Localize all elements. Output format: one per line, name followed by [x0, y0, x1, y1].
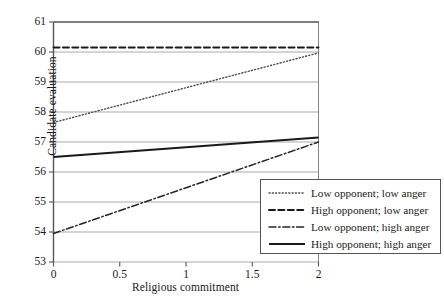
y-tick-label: 54 [16, 226, 46, 238]
legend-label: Low opponent; high anger [311, 221, 429, 233]
legend-label: Low opponent; low anger [311, 187, 426, 199]
y-tick-label: 55 [16, 196, 46, 208]
legend-item: Low opponent; high anger [261, 218, 442, 235]
legend-line-swatch-dashed [268, 203, 306, 217]
chart-legend: Low opponent; low angerHigh opponent; lo… [260, 179, 441, 254]
chart-figure: 535455565758596061 00.511.52 Candidate e… [0, 0, 444, 308]
legend-item: High opponent; high anger [261, 235, 442, 252]
y-tick-label: 53 [16, 256, 46, 268]
y-axis-title: Candidate evaluation [46, 6, 58, 206]
legend-line-swatch-dashdot [268, 220, 306, 234]
y-tick-label: 60 [16, 46, 46, 58]
y-tick-label: 56 [16, 166, 46, 178]
x-tick-label: 0 [34, 269, 74, 281]
x-tick-label: 1 [166, 269, 206, 281]
x-tick-label: 2 [299, 269, 339, 281]
legend-line-swatch-dotted [268, 186, 306, 200]
legend-line-swatch-solid [268, 237, 306, 251]
legend-item: High opponent; low anger [261, 201, 442, 218]
y-tick-label: 61 [16, 16, 46, 28]
y-tick-label: 57 [16, 136, 46, 148]
x-axis-ticks [54, 262, 319, 267]
y-tick-label: 58 [16, 106, 46, 118]
legend-item: Low opponent; low anger [261, 184, 442, 201]
legend-label: High opponent; low anger [311, 204, 428, 216]
x-tick-label: 1.5 [232, 269, 272, 281]
legend-label: High opponent; high anger [311, 238, 431, 250]
x-axis-title: Religious commitment [53, 281, 318, 293]
plot-area [0, 0, 444, 308]
y-tick-label: 59 [16, 76, 46, 88]
x-tick-label: 0.5 [100, 269, 140, 281]
series-line-3 [54, 138, 319, 158]
